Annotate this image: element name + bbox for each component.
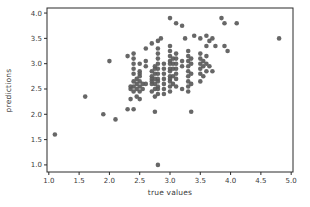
data-point (156, 163, 161, 168)
data-point (189, 72, 194, 77)
x-tick-label: 3.5 (195, 177, 206, 185)
data-point (162, 72, 167, 77)
data-point (131, 51, 136, 56)
data-point (156, 92, 161, 97)
data-point (101, 112, 106, 117)
data-point (174, 61, 179, 66)
data-point (156, 46, 161, 51)
data-point (83, 94, 88, 99)
data-point (150, 41, 155, 46)
data-point (156, 72, 161, 77)
data-point (125, 54, 130, 59)
data-point (183, 36, 188, 41)
data-point (168, 49, 173, 54)
data-point (162, 92, 167, 97)
data-point (131, 107, 136, 112)
data-point (204, 69, 209, 74)
data-point (156, 84, 161, 89)
data-point (189, 110, 194, 115)
data-point (222, 44, 227, 49)
scatter-figure: 1.01.52.02.53.03.54.04.55.01.01.52.02.53… (0, 0, 310, 207)
data-point (156, 56, 161, 61)
data-point (219, 16, 224, 21)
data-point (207, 64, 212, 69)
data-point (156, 66, 161, 71)
data-point (162, 87, 167, 92)
data-point (198, 79, 203, 84)
data-point (131, 72, 136, 77)
data-point (225, 49, 230, 54)
data-point (113, 117, 118, 122)
data-point (192, 34, 197, 39)
x-tick-label: 1.0 (43, 177, 54, 185)
data-point (144, 64, 149, 69)
data-point (210, 69, 215, 74)
y-tick-label: 1.5 (31, 136, 42, 144)
data-point (180, 64, 185, 69)
data-point (277, 36, 282, 41)
data-point (128, 97, 133, 102)
data-point (234, 21, 239, 26)
data-point (137, 61, 142, 66)
data-point (174, 21, 179, 26)
data-point (180, 59, 185, 64)
data-point (162, 61, 167, 66)
data-point (174, 56, 179, 61)
data-point (131, 66, 136, 71)
data-point (156, 77, 161, 82)
data-point (198, 51, 203, 56)
data-point (204, 54, 209, 59)
x-tick-label: 4.0 (225, 177, 236, 185)
data-point (189, 56, 194, 61)
data-point (198, 36, 203, 41)
data-point (168, 16, 173, 21)
data-point (204, 44, 209, 49)
y-tick-label: 2.5 (31, 85, 42, 93)
data-point (168, 89, 173, 94)
y-tick-label: 2.0 (31, 111, 42, 119)
x-axis-label: true values (47, 188, 293, 197)
data-point (131, 61, 136, 66)
data-point (162, 66, 167, 71)
data-point (189, 61, 194, 66)
data-point (180, 23, 185, 28)
y-tick-label: 3.5 (31, 35, 42, 43)
data-point (125, 107, 130, 112)
scatter-plot-canvas: 1.01.52.02.53.03.54.04.55.01.01.52.02.53… (0, 0, 310, 207)
data-point (159, 36, 164, 41)
x-tick-label: 4.5 (255, 177, 266, 185)
data-point (189, 82, 194, 87)
data-point (156, 61, 161, 66)
data-point (144, 46, 149, 51)
data-point (153, 110, 158, 115)
data-point (186, 89, 191, 94)
data-point (131, 56, 136, 61)
x-tick-label: 2.0 (104, 177, 115, 185)
data-point (134, 94, 139, 99)
data-point (201, 74, 206, 79)
data-point (174, 66, 179, 71)
data-point (174, 72, 179, 77)
y-axis-label: predictions (4, 46, 13, 136)
y-tick-label: 3.0 (31, 60, 42, 68)
y-tick-label: 1.0 (31, 161, 42, 169)
data-point (174, 51, 179, 56)
data-point (210, 36, 215, 41)
data-point (222, 21, 227, 26)
data-point (180, 87, 185, 92)
data-point (140, 87, 145, 92)
x-tick-label: 1.5 (74, 177, 85, 185)
y-tick-label: 4.0 (31, 10, 42, 18)
data-point (144, 82, 149, 87)
data-point (156, 51, 161, 56)
data-point (162, 82, 167, 87)
x-tick-label: 5.0 (286, 177, 297, 185)
data-point (168, 44, 173, 49)
data-point (137, 69, 142, 74)
data-point (53, 132, 58, 137)
data-point (144, 59, 149, 64)
data-point (174, 84, 179, 89)
data-point (162, 77, 167, 82)
data-point (204, 34, 209, 39)
x-tick-label: 2.5 (134, 177, 145, 185)
